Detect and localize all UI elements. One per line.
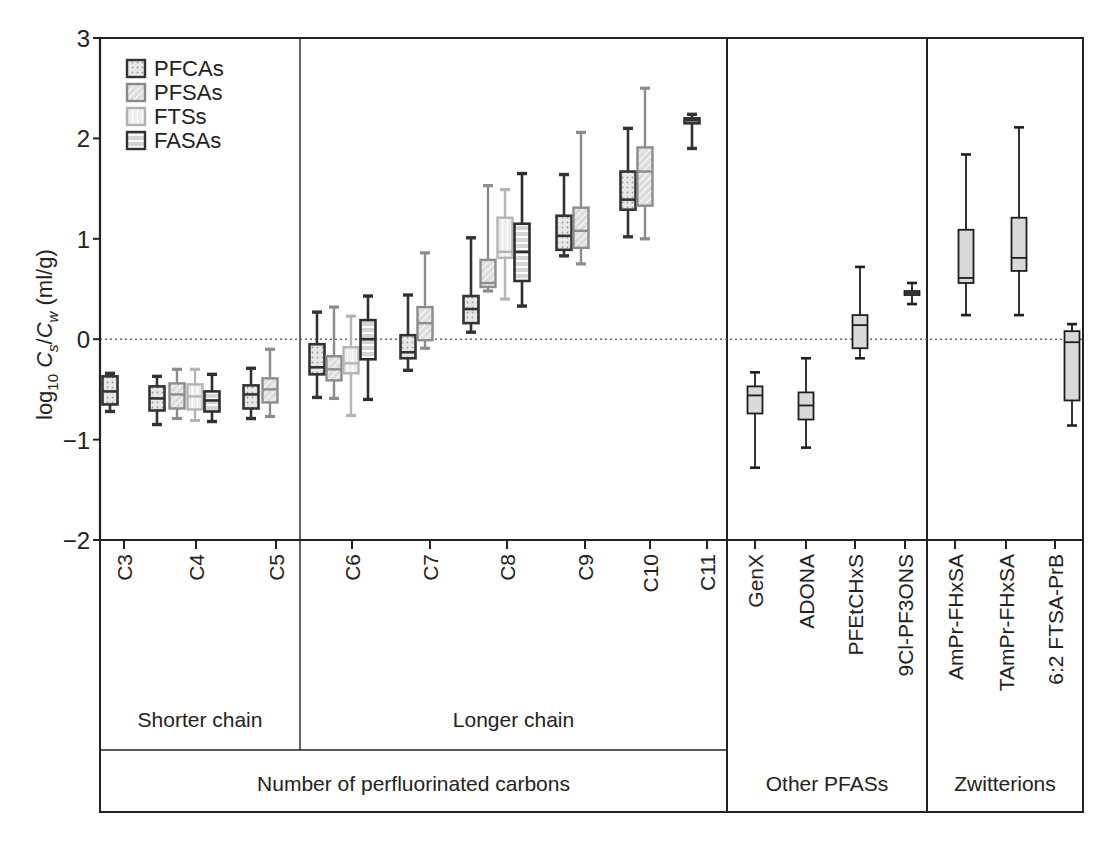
box-C4-FASAs — [205, 374, 220, 421]
box-C6-PFCAs — [310, 312, 325, 397]
box-GenX-Other — [748, 372, 763, 467]
box-PFEtCHxS-Other — [853, 267, 868, 358]
box-C6-FTSs — [344, 316, 359, 415]
x-tick-label: C9 — [574, 554, 597, 581]
box-C8-PFCAs — [464, 238, 479, 332]
y-tick-label: 1 — [77, 226, 90, 253]
legend-swatch — [127, 84, 145, 101]
box-6:2 FTSA-PrB-Zwitterion — [1065, 324, 1080, 425]
x-tick-label: PFEtCHxS — [844, 554, 867, 656]
legend-item-ftss: FTSs — [127, 104, 207, 129]
box-C11-PFCAs — [685, 114, 700, 148]
box-AmPr-FHxSA-Zwitterion — [959, 154, 974, 315]
legend-label: PFSAs — [154, 80, 222, 105]
boxplot-chart: −2−10123 log10 Cs/Cw (ml/g) PFCAsPFSAsFT… — [0, 0, 1107, 845]
x-tick-label: C11 — [696, 554, 719, 591]
box-C5-PFSAs — [263, 349, 278, 416]
legend-label: FTSs — [154, 104, 207, 129]
x-tick-label: C6 — [341, 554, 364, 581]
box-ADONA-Other — [799, 358, 814, 447]
x-tick-label: 9Cl-PF3ONS — [894, 554, 917, 677]
y-tick-label: −2 — [63, 527, 90, 554]
box-C6-PFSAs — [327, 307, 342, 398]
group-labels: Shorter chainLonger chainOther PFASsZwit… — [138, 708, 1056, 795]
x-tick-label: C8 — [496, 554, 519, 581]
group-label: Shorter chain — [138, 708, 263, 731]
legend-swatch — [127, 108, 145, 125]
group-label: Zwitterions — [954, 772, 1056, 795]
box-9Cl-PF3ONS-Other — [905, 283, 920, 304]
outer-border — [100, 38, 1083, 812]
x-tick-label: C7 — [419, 554, 442, 581]
legend: PFCAsPFSAsFTSsFASAs — [127, 56, 224, 153]
x-tick-label: C5 — [265, 554, 288, 581]
x-tick-label: C4 — [185, 554, 208, 581]
chart-canvas: −2−10123 log10 Cs/Cw (ml/g) PFCAsPFSAsFT… — [0, 0, 1107, 845]
y-tick-label: −1 — [63, 427, 90, 454]
legend-swatch — [127, 132, 145, 149]
box-C5-PFCAs — [244, 368, 259, 418]
x-tick-label: TAmPr-FHxSA — [995, 554, 1018, 691]
box-C8-PFSAs — [481, 186, 496, 291]
x-tick-label: 6:2 FTSA-PrB — [1044, 554, 1067, 685]
x-tick-label: C10 — [639, 554, 662, 593]
box-C8-FTSs — [498, 190, 513, 299]
box-C7-PFCAs — [401, 295, 416, 370]
box-series — [103, 88, 1080, 468]
legend-swatch — [127, 60, 145, 77]
box-C10-PFCAs — [621, 128, 636, 236]
legend-item-pfsas: PFSAs — [127, 80, 222, 105]
y-axis-title: log10 Cs/Cw (ml/g) — [32, 249, 61, 420]
legend-item-pfcas: PFCAs — [127, 56, 224, 81]
x-tick-label: GenX — [744, 554, 767, 608]
y-tick-label: 3 — [77, 25, 90, 52]
legend-label: PFCAs — [154, 56, 224, 81]
x-tick-label: AmPr-FHxSA — [944, 554, 967, 680]
y-axis-label: log10 Cs/Cw (ml/g) — [32, 249, 61, 420]
legend-label: FASAs — [154, 128, 221, 153]
box-C9-PFSAs — [574, 132, 589, 264]
group-label: Longer chain — [453, 708, 574, 731]
x-tick-label: ADONA — [795, 554, 818, 629]
box-C4-PFSAs — [170, 369, 185, 418]
group-label: Other PFASs — [766, 772, 889, 795]
y-axis: −2−10123 — [63, 25, 100, 554]
supergroup-label: Number of perfluorinated carbons — [257, 772, 570, 795]
box-C6-FASAs — [361, 296, 376, 399]
box-C7-PFSAs — [418, 253, 433, 348]
y-tick-label: 0 — [77, 326, 90, 353]
y-tick-label: 2 — [77, 125, 90, 152]
box-C3-PFCAs — [103, 373, 118, 411]
x-tick-label: C3 — [113, 554, 136, 581]
box-C10-PFSAs — [638, 88, 653, 239]
box-TAmPr-FHxSA-Zwitterion — [1012, 127, 1027, 315]
legend-item-fasas: FASAs — [127, 128, 221, 153]
plot-frame — [94, 38, 1083, 812]
box-C4-PFCAs — [150, 376, 165, 424]
box-C4-FTSs — [188, 369, 203, 420]
box-C9-PFCAs — [557, 175, 572, 256]
box-C8-FASAs — [515, 174, 530, 307]
x-axis-labels: C3C4C5C6C7C8C9C10C11GenXADONAPFEtCHxS9Cl… — [113, 540, 1067, 691]
